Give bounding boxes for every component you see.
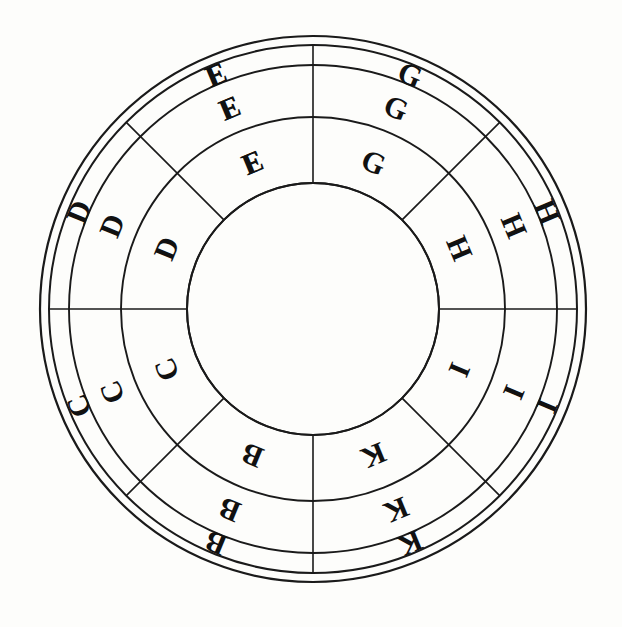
- cell-label-K-ring1: K: [379, 491, 414, 531]
- sector-divider-5: [126, 398, 224, 496]
- cell-label-K-ring2: K: [356, 436, 391, 476]
- cell-label-H-ring1: H: [495, 208, 534, 242]
- cell-label-H-ring0: H: [528, 195, 567, 229]
- cell-label-D-ring1: D: [92, 209, 131, 242]
- sector-divider-7: [126, 122, 224, 220]
- cell-label-B-ring1: B: [214, 491, 245, 529]
- cell-label-G-ring0: G: [393, 55, 427, 94]
- sector-divider-1: [402, 122, 500, 220]
- sector-divider-3: [402, 398, 500, 496]
- wheel-svg: GGGHHHIIIKKKBBBCCCDDDEEEFFF: [0, 0, 622, 627]
- cell-label-C-ring2: C: [147, 354, 186, 387]
- cell-label-I-ring0: I: [530, 394, 565, 417]
- cell-label-D-ring2: D: [147, 232, 186, 265]
- cell-label-C-ring0: C: [59, 390, 98, 423]
- center-hub-group: [187, 183, 439, 435]
- ring-boundary-inner-ring: [187, 183, 439, 435]
- cell-label-B-ring0: B: [200, 525, 231, 563]
- cell-label-I-ring1: I: [497, 381, 532, 404]
- cell-label-G-ring2: G: [357, 142, 391, 181]
- center-hub-circle: [187, 183, 439, 435]
- sector-divider-group: [49, 45, 577, 573]
- cell-label-H-ring2: H: [440, 231, 479, 265]
- cell-label-G-ring1: G: [379, 88, 413, 127]
- cell-label-B-ring2: B: [237, 437, 268, 475]
- cell-label-K-ring0: K: [392, 524, 427, 564]
- lettered-wheel-diagram: GGGHHHIIIKKKBBBCCCDDDEEEFFF: [0, 0, 622, 627]
- cell-label-D-ring0: D: [59, 195, 98, 228]
- cell-label-C-ring1: C: [92, 376, 131, 409]
- cell-label-I-ring2: I: [442, 358, 477, 381]
